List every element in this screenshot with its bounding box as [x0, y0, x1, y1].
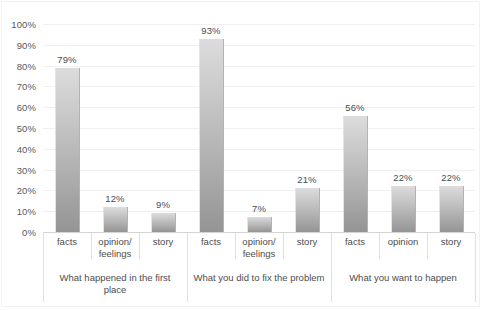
- y-tick-label: 50%: [17, 123, 36, 134]
- group-separator: [187, 233, 188, 270]
- bar-value-label: 56%: [345, 102, 364, 113]
- gridline: [43, 149, 475, 150]
- bar: [391, 186, 416, 232]
- bar: [247, 217, 272, 232]
- category-separator: [427, 233, 428, 259]
- bar: [343, 116, 368, 232]
- y-tick-label: 10%: [17, 206, 36, 217]
- group-separator: [43, 270, 44, 302]
- group-separator: [475, 270, 476, 302]
- category-label: facts: [187, 236, 235, 248]
- gridline: [43, 107, 475, 108]
- bar-value-label: 21%: [297, 174, 316, 185]
- y-tick-label: 90%: [17, 39, 36, 50]
- category-separator: [91, 233, 92, 259]
- x-axis-group-labels: What happened in the first placeWhat you…: [43, 270, 475, 304]
- bar-value-label: 7%: [252, 203, 266, 214]
- group-separator: [43, 233, 44, 270]
- bar: [199, 39, 224, 232]
- category-separator: [379, 233, 380, 259]
- category-label: opinion/ feelings: [235, 236, 283, 260]
- bar-value-label: 22%: [393, 172, 412, 183]
- y-axis: 100%90%80%70%60%50%40%30%20%10%0%: [0, 24, 40, 232]
- gridline: [43, 66, 475, 67]
- gridline: [43, 45, 475, 46]
- bar: [103, 207, 128, 232]
- y-tick-label: 70%: [17, 81, 36, 92]
- group-separator: [331, 233, 332, 270]
- category-label: opinion/ feelings: [91, 236, 139, 260]
- group-separator: [331, 270, 332, 302]
- y-tick-label: 30%: [17, 164, 36, 175]
- y-tick-label: 80%: [17, 60, 36, 71]
- y-tick-label: 60%: [17, 102, 36, 113]
- y-tick-label: 0%: [22, 227, 36, 238]
- bar: [55, 68, 80, 232]
- group-label: What you want to happen: [334, 272, 472, 284]
- y-tick-label: 100%: [11, 19, 36, 30]
- bar-value-label: 12%: [105, 193, 124, 204]
- category-separator: [235, 233, 236, 259]
- group-label: What you did to fix the problem: [190, 272, 328, 284]
- bar-chart: 100%90%80%70%60%50%40%30%20%10%0% 79%12%…: [0, 0, 483, 310]
- group-label: What happened in the first place: [46, 272, 184, 296]
- group-separator: [187, 270, 188, 302]
- category-label: story: [283, 236, 331, 248]
- bar: [151, 213, 176, 232]
- category-label: opinion: [379, 236, 427, 248]
- group-separator: [475, 233, 476, 270]
- bar-value-label: 79%: [57, 54, 76, 65]
- x-axis-category-labels: factsopinion/ feelingsstoryfactsopinion/…: [43, 233, 475, 270]
- bar-value-label: 93%: [201, 25, 220, 36]
- plot-area: 79%12%9%93%7%21%56%22%22%: [43, 24, 475, 232]
- y-tick-label: 40%: [17, 143, 36, 154]
- category-label: story: [427, 236, 475, 248]
- y-tick-label: 20%: [17, 185, 36, 196]
- category-label: story: [139, 236, 187, 248]
- category-separator: [283, 233, 284, 259]
- category-separator: [139, 233, 140, 259]
- category-label: facts: [331, 236, 379, 248]
- bar: [295, 188, 320, 232]
- gridline: [43, 86, 475, 87]
- gridline: [43, 170, 475, 171]
- bar-value-label: 22%: [441, 172, 460, 183]
- gridline: [43, 24, 475, 25]
- gridline: [43, 128, 475, 129]
- bar: [439, 186, 464, 232]
- category-label: facts: [43, 236, 91, 248]
- bar-value-label: 9%: [156, 199, 170, 210]
